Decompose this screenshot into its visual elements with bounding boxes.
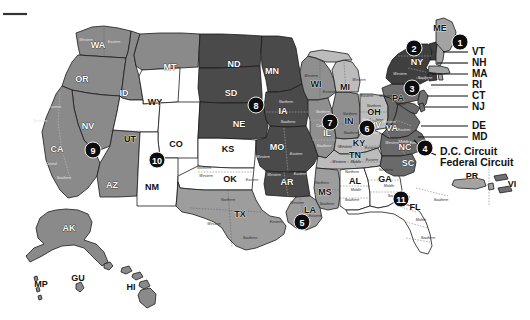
district-label: Eastern <box>49 105 61 109</box>
district-label: Middle <box>416 218 427 222</box>
territory-MP-3[interactable] <box>38 295 42 300</box>
circuit-badge-2[interactable]: 2 <box>406 40 422 56</box>
district-label: Western <box>393 72 406 76</box>
state-label-FL: FL <box>410 202 421 212</box>
state-label-TN: TN <box>349 150 361 160</box>
district-label: Western <box>379 94 392 98</box>
state-label-MO: MO <box>270 142 285 152</box>
side-label-VT: VT <box>472 46 485 57</box>
state-label-PA: PA <box>392 93 404 103</box>
district-label: Eastern <box>290 152 302 156</box>
district-label: Western <box>338 145 351 149</box>
state-label-ID: ID <box>120 88 130 98</box>
badge-number: 11 <box>396 195 406 205</box>
badge-number: 9 <box>90 146 95 156</box>
state-label-MT: MT <box>164 62 177 72</box>
state-label-NC: NC <box>399 142 412 152</box>
district-label: Southern <box>344 131 359 135</box>
state-CO[interactable] <box>158 102 200 158</box>
state-label-VA: VA <box>386 123 398 133</box>
state-HI-island-2[interactable] <box>121 266 132 274</box>
side-label-MD: MD <box>472 131 488 142</box>
district-label: Southern <box>243 236 258 240</box>
district-label: Central <box>45 162 57 166</box>
district-label: Southern <box>317 144 332 148</box>
circuit-badge-10[interactable]: 10 <box>149 152 165 168</box>
badge-number: 2 <box>411 44 416 54</box>
district-label: Western <box>304 74 317 78</box>
state-label-CO: CO <box>169 139 183 149</box>
us-circuit-map: WesternEasternEasternNorthernCentralSout… <box>0 0 530 320</box>
state-label-WI: WI <box>311 79 322 89</box>
state-label-SC: SC <box>402 158 415 168</box>
district-label: Eastern <box>398 128 410 132</box>
district-label: Southern <box>418 76 433 80</box>
state-HI-island-4[interactable] <box>139 280 150 289</box>
circuit-badge-6[interactable]: 6 <box>359 120 375 136</box>
state-label-AL: AL <box>349 176 361 186</box>
district-label: Northern <box>315 181 329 185</box>
state-label-OK: OK <box>223 174 237 184</box>
district-label: Northern <box>279 100 293 104</box>
state-label-ME: ME <box>433 23 447 33</box>
state-label-WY: WY <box>148 97 163 107</box>
circuit-badge-8[interactable]: 8 <box>248 97 264 113</box>
district-label: Western <box>290 201 303 205</box>
district-label: Southern <box>320 202 335 206</box>
circuit-badge-11[interactable]: 11 <box>393 191 409 207</box>
side-label-RI: RI <box>472 79 482 90</box>
district-label: Southern <box>57 176 72 180</box>
side-label-DE: DE <box>472 120 486 131</box>
side-label-MA: MA <box>472 68 488 79</box>
circuit-badge-5[interactable]: 5 <box>294 214 310 230</box>
state-HI-island-3[interactable] <box>132 272 143 280</box>
district-label: Eastern <box>108 40 120 44</box>
state-label-WA: WA <box>91 40 106 50</box>
district-label: Northern <box>343 112 357 116</box>
badge-number: 5 <box>299 218 304 228</box>
circuit-badge-4[interactable]: 4 <box>417 140 433 156</box>
state-label-LA: LA <box>304 205 316 215</box>
district-label: Northern <box>221 198 235 202</box>
state-label-VI: VI <box>508 179 517 189</box>
circuit-badge-3[interactable]: 3 <box>404 80 420 96</box>
state-OK[interactable] <box>178 166 254 190</box>
district-label: Western <box>199 174 212 178</box>
state-label-OR: OR <box>75 74 89 84</box>
state-label-OH: OH <box>367 107 381 117</box>
state-label-MP: MP <box>34 279 48 289</box>
district-label: Eastern <box>294 172 306 176</box>
state-HI-island-big[interactable] <box>138 288 156 308</box>
state-label-KY: KY <box>353 138 366 148</box>
circuit-badge-1[interactable]: 1 <box>452 34 468 50</box>
state-label-TX: TX <box>234 209 246 219</box>
state-HI-island-1[interactable] <box>104 262 113 270</box>
district-label: Western <box>267 173 280 177</box>
district-label: Western <box>256 155 269 159</box>
badge-number: 6 <box>364 124 369 134</box>
district-label: Northern <box>33 119 47 123</box>
district-label: Northern <box>379 168 393 172</box>
circuit-badge-9[interactable]: 9 <box>85 142 101 158</box>
side-label-CT: CT <box>472 90 485 101</box>
district-label: Eastern <box>365 146 377 150</box>
district-label: Western <box>352 78 365 82</box>
district-label: Southern <box>434 198 449 202</box>
circuit-name-label: Federal Circuit <box>440 156 514 168</box>
state-MN[interactable] <box>261 36 302 92</box>
territory-GU[interactable] <box>76 282 84 292</box>
state-RI[interactable] <box>438 74 443 80</box>
state-label-SD: SD <box>225 88 238 98</box>
territory-VI-1[interactable] <box>494 174 508 181</box>
circuit-badge-7[interactable]: 7 <box>322 114 338 130</box>
state-MA[interactable] <box>428 66 450 74</box>
district-label: Eastern <box>270 220 282 224</box>
side-label-NJ: NJ <box>472 101 485 112</box>
district-label: Middle <box>351 160 362 164</box>
state-label-UT: UT <box>124 134 136 144</box>
state-AK[interactable] <box>26 209 108 266</box>
side-label-NH: NH <box>472 57 486 68</box>
badge-number: 4 <box>422 144 427 154</box>
district-label: Middle <box>351 188 362 192</box>
state-label-MI: MI <box>340 82 350 92</box>
